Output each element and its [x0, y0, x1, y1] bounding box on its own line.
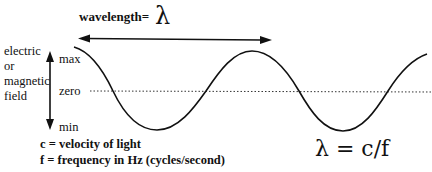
amplitude-arrow: [46, 51, 54, 130]
y-axis-label-line-1: electric: [4, 44, 41, 58]
legend-frequency: f = frequency in Hz (cycles/second): [40, 153, 225, 168]
sine-wave: [74, 47, 427, 131]
wavelength-formula: λ = c/f: [315, 136, 389, 161]
tick-zero: zero: [59, 84, 81, 99]
zero-line: [90, 91, 432, 92]
legend-velocity: c = velocity of light: [40, 137, 141, 152]
wavelength-label: wavelength=: [79, 9, 149, 25]
y-axis-label-line-3: magnetic: [4, 74, 50, 88]
tick-max: max: [59, 52, 81, 67]
y-axis-label-line-2: or: [4, 59, 14, 73]
y-axis-label-line-4: field: [4, 89, 27, 103]
wavelength-symbol: λ: [155, 2, 170, 30]
wavelength-arrow: [78, 35, 272, 45]
tick-min: min: [59, 120, 78, 135]
